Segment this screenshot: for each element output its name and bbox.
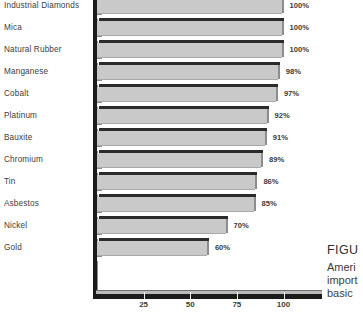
category-label: Platinum	[4, 111, 37, 121]
bar-top-edge	[99, 172, 257, 175]
bar-top-edge	[99, 18, 284, 21]
x-axis-tick-label: 25	[139, 300, 148, 309]
x-axis-tick	[284, 292, 285, 299]
category-label: Mica	[4, 23, 22, 33]
bar-value-label: 100%	[290, 45, 309, 54]
bar-value-label: 85%	[262, 199, 277, 208]
bar-face	[97, 109, 267, 124]
bar-side-edge	[226, 217, 228, 233]
bar-top-edge	[99, 106, 269, 109]
x-axis-tick	[144, 292, 145, 299]
category-label: Bauxite	[4, 133, 32, 143]
figure-page: 100%100%100%98%97%92%91%89%86%85%70%60% …	[0, 0, 363, 315]
x-axis-tick-label: 75	[232, 300, 241, 309]
category-label: Industrial Diamonds	[4, 1, 79, 11]
bar[interactable]	[97, 84, 278, 102]
bar-side-edge	[265, 129, 267, 145]
x-axis-line	[93, 294, 322, 299]
bar-side-edge	[282, 0, 284, 13]
bar-top-edge	[99, 216, 228, 219]
bar-value-label: 100%	[290, 23, 309, 32]
bar[interactable]	[97, 18, 284, 36]
bar[interactable]	[97, 150, 263, 168]
x-axis-tick	[237, 292, 238, 299]
bar-value-label: 98%	[286, 67, 301, 76]
bar-face	[97, 219, 226, 234]
bar-side-edge	[207, 239, 209, 255]
bar[interactable]	[97, 106, 269, 124]
bar-face	[97, 241, 207, 256]
bar-chart: 100%100%100%98%97%92%91%89%86%85%70%60% …	[0, 0, 320, 315]
bar[interactable]	[97, 216, 228, 234]
x-axis-tick-label: 100	[277, 300, 290, 309]
bar-face	[97, 175, 255, 190]
bar-value-label: 91%	[273, 133, 288, 142]
x-axis-tick-label: 50	[186, 300, 195, 309]
bar[interactable]	[97, 172, 257, 190]
caption-line-2: import	[327, 274, 363, 287]
category-label: Cobalt	[4, 89, 29, 99]
bar-value-label: 70%	[234, 221, 249, 230]
figure-number: FIGU	[327, 243, 363, 257]
category-label: Nickel	[4, 221, 27, 231]
bar-value-label: 60%	[215, 243, 230, 252]
bar-face	[97, 131, 265, 146]
bar-value-label: 100%	[290, 1, 309, 10]
bar-value-label: 92%	[275, 111, 290, 120]
category-label: Natural Rubber	[4, 45, 62, 55]
bar-top-edge	[99, 238, 209, 241]
bar-face	[97, 153, 261, 168]
bar-side-edge	[261, 151, 263, 167]
bar-face	[97, 87, 276, 102]
bar-face	[97, 197, 254, 212]
x-axis-top-edge	[96, 290, 322, 291]
bar-gap-notch	[97, 256, 102, 261]
bar-top-edge	[99, 84, 278, 87]
bar-top-edge	[99, 150, 263, 153]
caption-line-3: basic	[327, 287, 363, 300]
bar[interactable]	[97, 238, 209, 256]
bar-value-label: 97%	[284, 89, 299, 98]
bar-face	[97, 65, 278, 80]
category-label: Asbestos	[4, 199, 39, 209]
bar-face	[97, 43, 282, 58]
bar-top-edge	[99, 62, 280, 65]
bar[interactable]	[97, 0, 284, 14]
category-label: Chromium	[4, 155, 43, 165]
bar-value-label: 89%	[269, 155, 284, 164]
bar-side-edge	[276, 85, 278, 101]
bar-face	[97, 21, 282, 36]
bar-top-edge	[99, 128, 267, 131]
bar[interactable]	[97, 128, 267, 146]
bar-face	[97, 0, 282, 14]
bar-top-edge	[99, 40, 284, 43]
bar[interactable]	[97, 62, 280, 80]
category-label: Tin	[4, 177, 16, 187]
bar-top-edge	[99, 194, 256, 197]
bar-side-edge	[278, 63, 280, 79]
category-label: Gold	[4, 243, 22, 253]
bar-side-edge	[282, 41, 284, 57]
figure-caption: FIGU Ameri import basic	[327, 243, 363, 300]
bar[interactable]	[97, 194, 256, 212]
bar-side-edge	[267, 107, 269, 123]
category-label: Manganese	[4, 67, 48, 77]
x-axis-tick	[190, 292, 191, 299]
bar[interactable]	[97, 40, 284, 58]
bar-side-edge	[255, 173, 257, 189]
bar-side-edge	[254, 195, 256, 211]
bar-value-label: 86%	[263, 177, 278, 186]
caption-line-1: Ameri	[327, 261, 363, 274]
bar-side-edge	[282, 19, 284, 35]
